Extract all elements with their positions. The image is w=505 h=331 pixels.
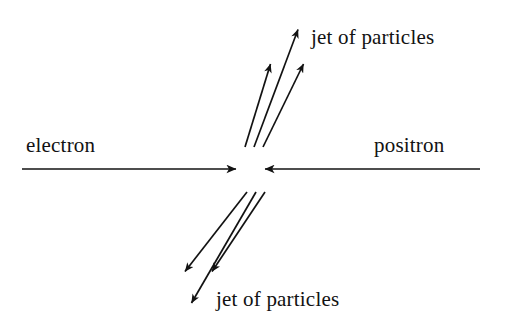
diagram-canvas [0,0,505,331]
upper-jet-arrow-1 [245,64,271,147]
lower-jet-label: jet of particles [216,289,339,310]
electron-label: electron [26,135,95,156]
upper-jet-group [245,30,304,148]
positron-label: positron [374,135,444,156]
particle-collision-diagram: electron positron jet of particles jet o… [0,0,505,331]
upper-jet-label: jet of particles [311,27,434,48]
